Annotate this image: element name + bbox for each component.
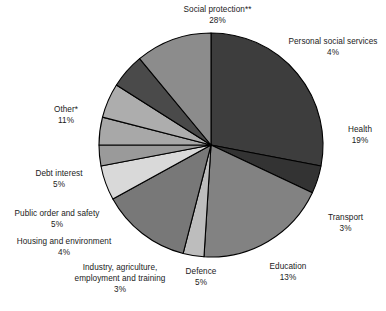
pie-slice-name: Defence [176, 266, 226, 277]
pie-slice-name: employment and training [64, 273, 176, 284]
pie-slice-value: 19% [339, 135, 381, 146]
pie-slice-value: 5% [2, 219, 112, 230]
pie-slice-name: Public order and safety [2, 208, 112, 219]
pie-slice-label: Education13% [258, 261, 318, 283]
pie-slice-value: 11% [44, 115, 88, 126]
pie-slice-name: Other* [44, 104, 88, 115]
pie-slice-value: 5% [24, 179, 94, 190]
pie-slice-value: 4% [283, 47, 383, 58]
pie-slice-value: 5% [176, 277, 226, 288]
pie-slices-group [99, 33, 323, 257]
pie-slice-value: 4% [4, 247, 124, 258]
pie-slice-name: Social protection** [160, 4, 275, 15]
pie-slice-label: Defence5% [176, 266, 226, 288]
pie-slice-label: Public order and safety5% [2, 208, 112, 230]
pie-slice-label: Personal social services4% [283, 36, 383, 58]
pie-slice-label: Housing and environment4% [4, 236, 124, 258]
pie-slice-name: Education [258, 261, 318, 272]
pie-slice-name: Health [339, 124, 381, 135]
pie-slice-label: Industry, agriculture,employment and tra… [64, 262, 176, 295]
pie-slice-label: Social protection**28% [160, 4, 275, 26]
pie-slice-name: Personal social services [283, 36, 383, 47]
pie-slice-label: Health19% [339, 124, 381, 146]
pie-slice-name: Transport [318, 212, 373, 223]
pie-slice-label: Transport3% [318, 212, 373, 234]
pie-slice-value: 28% [160, 15, 275, 26]
pie-slice-name: Industry, agriculture, [64, 262, 176, 273]
pie-slice-value: 3% [318, 223, 373, 234]
pie-slice-label: Debt interest5% [24, 168, 94, 190]
pie-slice-name: Debt interest [24, 168, 94, 179]
pie-chart: Social protection**28%Personal social se… [0, 0, 386, 311]
pie-slice-name: Housing and environment [4, 236, 124, 247]
pie-slice-value: 13% [258, 272, 318, 283]
pie-slice-value: 3% [64, 284, 176, 295]
pie-slice-label: Other*11% [44, 104, 88, 126]
